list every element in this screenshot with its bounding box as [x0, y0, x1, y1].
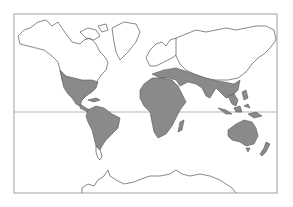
shaded-south-america — [86, 106, 120, 150]
shaded-tasmania — [246, 148, 250, 152]
caribbean-islands — [88, 98, 100, 102]
greenland — [112, 22, 140, 60]
asia-landmass — [176, 26, 276, 80]
world-map — [0, 0, 293, 207]
shaded-philippines — [242, 90, 248, 100]
shaded-new-zealand — [260, 142, 270, 156]
shaded-madagascar — [178, 120, 184, 132]
antarctica-coastline — [82, 170, 236, 193]
shaded-indonesia — [218, 104, 262, 118]
arctic-islands — [80, 24, 108, 40]
shaded-australia — [228, 120, 258, 146]
shaded-southeast-asia — [228, 94, 238, 106]
